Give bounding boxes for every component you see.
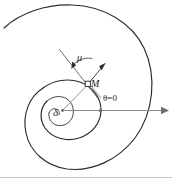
pole-label: δ — [53, 107, 58, 118]
radius-vector-line — [63, 85, 88, 110]
polar-axis-arrowhead-icon — [161, 107, 169, 114]
pole-dot — [61, 109, 64, 112]
angle-mu-label: μ — [77, 53, 82, 63]
spiral-outer-winding — [4, 5, 152, 170]
spiral-figure: μ M θ=0 δ — [0, 0, 172, 182]
axis-intersection-dot — [99, 109, 102, 112]
spiral-diagram-svg — [0, 0, 172, 182]
polar-axis-label: θ=0 — [103, 94, 117, 103]
spiral-inner-winding — [47, 97, 73, 126]
angle-mu-arc — [73, 58, 93, 65]
point-m-marker — [85, 81, 90, 86]
point-m-label: M — [91, 79, 99, 89]
